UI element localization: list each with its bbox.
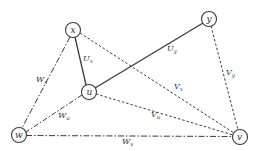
edge-label-wu: Wu [58,111,70,121]
node-y-label: y [206,14,213,24]
edge-label-uy: Uy [167,44,178,55]
node-x-label: x [71,25,76,35]
edge-label-vx: Vx [174,82,184,92]
graph-diagram: x y u w v Ux Uy Vy Vx Vu Wx Wu Wv [0,0,259,151]
node-v-label: v [237,132,242,142]
edge-u-v [96,94,233,135]
edge-label-wv: Wv [122,137,134,147]
node-w-label: w [15,130,23,140]
edge-label-vu: Vu [151,110,161,120]
edge-label-ux: Ux [83,54,94,64]
node-u-label: u [87,87,93,97]
edge-label-wx: Wx [36,75,48,85]
edge-u-w [26,95,82,132]
edge-label-vy: Vy [226,68,236,79]
edge-y-v [211,26,238,130]
